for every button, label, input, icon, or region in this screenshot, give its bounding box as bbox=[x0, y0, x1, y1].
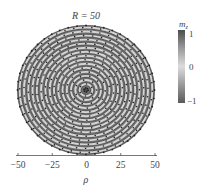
x-tick-label: −25 bbox=[45, 160, 60, 170]
colorbar-tick-mid: 0 bbox=[189, 62, 194, 72]
x-axis-label: ρ bbox=[83, 174, 89, 185]
colorbar-gradient bbox=[178, 30, 185, 103]
x-axis: −50−2502550 ρ bbox=[11, 153, 160, 185]
chart: R = 50 −50−2502550 ρ mz 1 0 −1 bbox=[0, 0, 212, 195]
colorbar-tick-max: 1 bbox=[189, 29, 194, 39]
x-tick-label: 50 bbox=[150, 160, 160, 170]
x-tick-label: 25 bbox=[116, 160, 126, 170]
colorbar-label: mz bbox=[179, 19, 189, 30]
x-tick-label: 0 bbox=[84, 160, 89, 170]
chart-title: R = 50 bbox=[71, 10, 100, 21]
colorbar-tick-min: −1 bbox=[187, 96, 197, 106]
x-tick-label: −50 bbox=[11, 160, 26, 170]
skyrmion-disk bbox=[13, 21, 158, 158]
colorbar: mz 1 0 −1 bbox=[178, 19, 197, 106]
